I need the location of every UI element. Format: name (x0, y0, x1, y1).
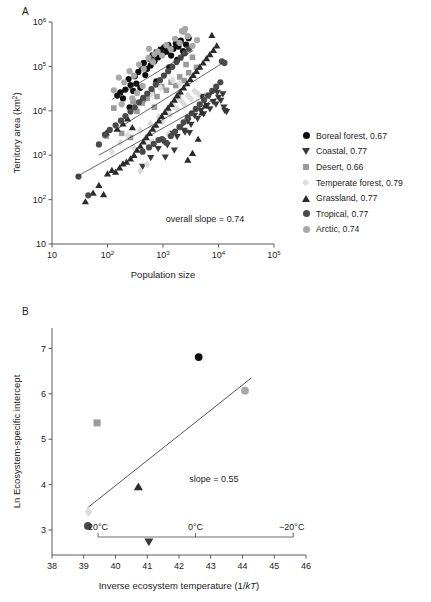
circle-marker-icon (296, 222, 316, 236)
x-tick-label: 38 (47, 561, 57, 571)
data-point (180, 119, 186, 125)
y-axis-title: Ln Ecosystem-specific intercept (11, 374, 22, 508)
data-point (96, 141, 102, 147)
legend-label: Grassland, 0.77 (316, 193, 377, 203)
data-point (159, 53, 165, 59)
data-point (147, 155, 154, 161)
data-point (172, 129, 178, 135)
y-tick-label: 102 (33, 194, 47, 204)
y-tick-label: 106 (33, 17, 47, 27)
overall-slope-annotation: overall slope = 0.74 (166, 214, 244, 224)
legend-item-temperate[interactable]: Temperate forest, 0.79 (296, 175, 431, 191)
data-point (136, 61, 142, 67)
data-point (212, 102, 219, 108)
data-point (176, 124, 182, 130)
data-point (154, 94, 160, 100)
data-point (217, 79, 223, 85)
data-point (146, 46, 152, 52)
figure-container: A 1010210310410510610102103104105overall… (0, 0, 431, 602)
data-point (151, 141, 157, 147)
data-point (144, 160, 150, 168)
data-point (107, 127, 113, 133)
legend-item-grassland[interactable]: Grassland, 0.77 (296, 190, 431, 206)
data-point (117, 139, 123, 147)
data-point (116, 74, 122, 80)
data-point (163, 140, 169, 146)
data-point (95, 182, 102, 188)
data-point-desert (94, 419, 101, 426)
data-point (140, 149, 146, 155)
circle-marker-icon (296, 129, 316, 143)
x-tick-label: 42 (174, 561, 184, 571)
data-point-boreal-forest (195, 353, 203, 361)
legend-label: Boreal forest, 0.67 (316, 131, 387, 141)
temperature-label: −20°C (279, 522, 305, 532)
data-point-grassland (134, 483, 143, 491)
data-point (82, 198, 89, 204)
legend-label: Coastal, 0.77 (316, 146, 367, 156)
data-point (126, 68, 132, 74)
data-point (194, 37, 200, 43)
data-point (131, 73, 137, 79)
data-point (111, 87, 117, 93)
y-tick-label: 4 (41, 480, 46, 490)
diamond-marker-icon (296, 176, 316, 190)
data-point (155, 146, 162, 152)
x-tick-label: 46 (301, 561, 311, 571)
legend-item-desert[interactable]: Desert, 0.66 (296, 159, 431, 175)
panel-b-plot: 34567383940414243444546slope = 0.5520°C0… (0, 300, 431, 602)
legend-item-arctic[interactable]: Arctic, 0.74 (296, 222, 431, 238)
x-axis-title: Inverse ecosystem temperature (1/kT) (99, 580, 260, 591)
scatter-layer (75, 26, 230, 205)
circle-marker-icon (296, 207, 316, 221)
data-point (195, 136, 202, 142)
x-tick-label: 41 (142, 561, 152, 571)
y-tick-label: 104 (33, 106, 47, 116)
data-point (155, 137, 161, 143)
y-tick-label: 5 (41, 434, 46, 444)
y-tick-label: 103 (33, 150, 47, 160)
data-point (129, 124, 136, 130)
data-point (189, 43, 195, 49)
panel-b: B 34567383940414243444546slope = 0.5520°… (0, 300, 431, 602)
data-point (185, 33, 191, 39)
temperature-label: 0°C (188, 522, 204, 532)
data-point (119, 101, 125, 107)
data-point (189, 150, 196, 156)
data-point (121, 79, 127, 85)
data-point (129, 95, 135, 101)
legend-item-coastal[interactable]: Coastal, 0.77 (296, 144, 431, 160)
triangle-down-marker-icon (296, 144, 316, 158)
data-point (102, 132, 108, 138)
data-point (176, 40, 182, 46)
x-tick-label: 103 (156, 250, 170, 260)
y-tick-label: 3 (41, 525, 46, 535)
legend-item-boreal[interactable]: Boreal forest, 0.67 (296, 128, 431, 144)
data-point (140, 83, 146, 89)
legend-label: Tropical, 0.77 (316, 209, 368, 219)
x-tick-label: 45 (269, 561, 279, 571)
data-point (144, 90, 150, 96)
triangle-up-marker-icon (296, 191, 316, 205)
temperature-axis (98, 533, 293, 537)
y-tick-label: 105 (33, 61, 47, 71)
legend-label: Temperate forest, 0.79 (316, 178, 403, 188)
data-point (141, 66, 147, 72)
data-point (162, 155, 169, 161)
data-point (113, 122, 119, 128)
data-point (122, 113, 128, 119)
square-marker-icon (296, 160, 316, 174)
data-point (111, 105, 117, 111)
data-point (213, 42, 220, 48)
data-point (168, 46, 174, 52)
data-point (118, 118, 124, 124)
x-tick-label: 40 (110, 561, 120, 571)
data-point (208, 32, 215, 38)
y-tick-label: 7 (41, 344, 46, 354)
legend-item-tropical[interactable]: Tropical, 0.77 (296, 206, 431, 222)
data-point (190, 55, 196, 61)
x-tick-label: 104 (212, 250, 226, 260)
data-point (150, 59, 156, 65)
data-point-arctic (241, 387, 249, 395)
data-point (186, 70, 192, 76)
